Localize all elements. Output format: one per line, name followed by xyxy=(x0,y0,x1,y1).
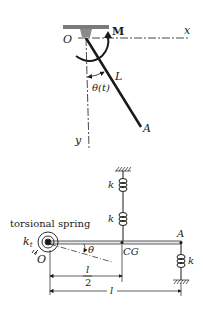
length-label: L xyxy=(114,70,122,83)
ground-hatch-top xyxy=(115,167,131,171)
pendulum-figure: O M x y L θ(t) A xyxy=(63,24,191,148)
rigid-bar xyxy=(48,241,181,244)
theta-label: θ xyxy=(88,244,94,255)
x-axis-label: x xyxy=(184,24,191,37)
right-spring xyxy=(177,244,185,280)
end-a-label-bottom: A xyxy=(176,228,184,239)
theta-arc xyxy=(84,244,85,252)
upper-spring xyxy=(119,171,127,212)
angle-label: θ(t) xyxy=(92,82,110,93)
spring-middle-k-label: k xyxy=(108,213,114,224)
rotated-position-line xyxy=(50,244,112,262)
ceiling-support xyxy=(63,25,109,29)
torsional-spring-label: torsional spring xyxy=(10,218,91,229)
diagram-canvas: O M x y L θ(t) A xyxy=(0,0,203,310)
full-length-label: l xyxy=(110,285,113,296)
half-length-numerator: l xyxy=(86,264,89,275)
torsional-spring-icon xyxy=(32,232,58,255)
pivot-block xyxy=(80,29,92,37)
origin-label: O xyxy=(63,33,72,46)
spring-upper-k-label: k xyxy=(108,179,114,190)
cg-label: CG xyxy=(123,246,139,257)
spring-right-k-label: k xyxy=(188,255,194,266)
y-axis-label: y xyxy=(74,134,82,147)
torsional-constant-label: kt xyxy=(23,235,33,249)
cg-point xyxy=(121,241,124,244)
half-length-denominator: 2 xyxy=(85,277,91,288)
origin-o-label: O xyxy=(37,253,46,266)
middle-spring xyxy=(119,213,127,243)
y-axis xyxy=(86,38,89,148)
end-a-point xyxy=(180,241,183,244)
spring-bar-figure: torsional spring kt O θ CG A k k k l 2 l xyxy=(10,167,194,296)
moment-label: M xyxy=(112,25,124,38)
angle-arc xyxy=(88,72,104,77)
end-a-label: A xyxy=(142,122,151,135)
